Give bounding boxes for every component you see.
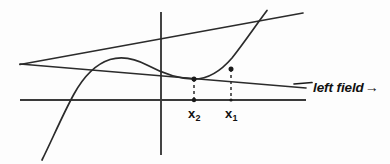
cubic-function-curve — [42, 11, 267, 161]
axis-label-leader — [294, 83, 312, 85]
tick-mark-x1 — [229, 98, 232, 101]
point-on-curve-x1 — [229, 67, 234, 72]
axis-annotation: left field→ — [313, 79, 379, 95]
tick-label-x2: x2 — [188, 106, 200, 121]
tick-label-x1-base: x — [225, 106, 232, 121]
tick-label-x2-subscript: 2 — [196, 113, 201, 123]
point-on-axis-x2 — [192, 98, 196, 102]
secant-chord-line — [20, 64, 306, 88]
newtons-method-diagram: x2 x1 left field→ — [0, 0, 390, 164]
right-arrow-icon: → — [365, 79, 379, 95]
axis-annotation-text: left field — [313, 80, 364, 95]
point-on-curve-x2 — [192, 77, 197, 82]
tick-label-x2-base: x — [188, 106, 195, 121]
tick-label-x1: x1 — [225, 106, 237, 121]
tick-label-x1-subscript: 1 — [233, 113, 238, 123]
